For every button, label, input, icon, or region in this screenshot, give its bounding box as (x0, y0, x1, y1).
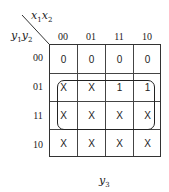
output-var-sub: 3 (105, 181, 109, 189)
cell-r3-c0: X (50, 130, 77, 157)
row-var-sub2: 2 (28, 36, 32, 44)
cell-r0-c3: 0 (134, 45, 161, 73)
cell-r3-c1: X (78, 130, 105, 157)
output-label: y3 (99, 174, 110, 189)
column-header-11: 11 (105, 31, 133, 42)
column-header-01: 01 (77, 31, 105, 42)
cell-r0-c2: 0 (106, 45, 133, 73)
column-header-10: 10 (133, 31, 161, 42)
col-var-sub2: 2 (48, 16, 52, 24)
row-header-11: 11 (30, 110, 46, 121)
column-variable-label: x1x2 (31, 9, 52, 24)
cell-r3-c3: X (134, 130, 161, 157)
cell-r0-c1: 0 (78, 45, 105, 73)
row-header-10: 10 (30, 139, 46, 150)
row-header-00: 00 (30, 52, 46, 63)
row-header-01: 01 (30, 81, 46, 92)
column-header-00: 00 (49, 31, 77, 42)
grouping-loop (57, 80, 155, 130)
cell-r0-c0: 0 (50, 45, 77, 73)
cell-r3-c2: X (106, 130, 133, 157)
row-variable-label: y1y2 (11, 29, 32, 44)
